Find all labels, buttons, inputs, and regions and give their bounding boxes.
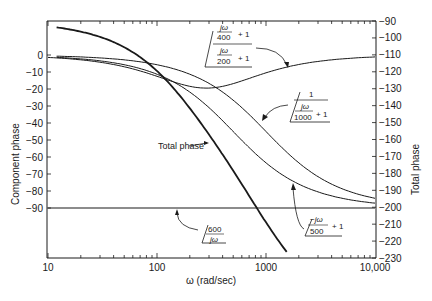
x-axis-label: ω (rad/sec) — [186, 275, 236, 286]
svg-text:−jω: −jω — [310, 215, 323, 224]
left-tick-label: −10 — [26, 67, 43, 78]
right-axis-label: Total phase — [410, 143, 421, 195]
right-tick-label: −190 — [379, 185, 402, 196]
left-tick-label: −40 — [26, 118, 43, 129]
right-tick-label: −170 — [379, 151, 402, 162]
svg-text:jω: jω — [300, 102, 309, 111]
right-tick-label: −200 — [379, 202, 402, 213]
svg-text:+ 1: + 1 — [332, 222, 344, 231]
x-tick-label: 10 — [42, 262, 54, 273]
left-tick-labels: 0−10−20−30−40−50−60−70−80−90 — [26, 50, 43, 214]
phase-curves — [48, 27, 375, 252]
x-tick-labels: 10100100010,000 — [42, 262, 390, 273]
svg-text:jω: jω — [219, 23, 228, 32]
total-phase-arrowhead — [204, 141, 209, 145]
leadlag-curve — [48, 57, 375, 88]
svg-text:+ 1: + 1 — [238, 30, 250, 39]
leadlag-annotation: jω 400 + 1 jω 200 + 1 — [205, 23, 289, 68]
right-tick-label: −130 — [379, 83, 402, 94]
svg-text:+ 1: + 1 — [238, 54, 250, 63]
x-tick-label: 10,000 — [360, 262, 391, 273]
x-tick-label: 1000 — [255, 262, 278, 273]
svg-text:jω: jω — [209, 235, 218, 244]
integrator-annotation: 600 jω — [175, 209, 226, 244]
right-tick-label: −220 — [379, 236, 402, 247]
svg-text:200: 200 — [217, 57, 231, 66]
left-axis-ticks — [47, 55, 51, 208]
left-tick-label: −30 — [26, 101, 43, 112]
right-tick-label: −160 — [379, 134, 402, 145]
right-tick-label: −110 — [379, 49, 401, 60]
pole-curve — [57, 56, 375, 198]
left-tick-label: −60 — [26, 152, 43, 163]
right-tick-label: −150 — [379, 117, 402, 128]
right-tick-label: −100 — [379, 32, 402, 43]
right-tick-label: −120 — [379, 66, 402, 77]
zero-annotation: −jω 500 + 1 — [291, 183, 344, 236]
left-tick-label: −20 — [26, 84, 43, 95]
x-tick-label: 100 — [149, 262, 166, 273]
svg-text:+ 1: + 1 — [316, 110, 328, 119]
right-tick-labels: −90−100−110−120−130−140−150−160−170−180−… — [379, 16, 402, 264]
total-phase-label: Total phase — [158, 141, 204, 151]
right-tick-label: −210 — [379, 219, 402, 230]
right-tick-label: −230 — [379, 253, 402, 264]
left-axis-label: Component phase — [10, 123, 21, 205]
left-tick-label: −90 — [26, 203, 43, 214]
phase-plot: 10100100010,000 0−10−20−30−40−50−60−70−8… — [0, 0, 432, 301]
right-tick-label: −140 — [379, 100, 402, 111]
rhp-zero-curve — [57, 57, 375, 203]
left-tick-label: −50 — [26, 135, 43, 146]
svg-text:400: 400 — [217, 33, 231, 42]
left-tick-label: 0 — [37, 50, 43, 61]
svg-text:1000: 1000 — [294, 113, 312, 122]
svg-text:jω: jω — [219, 46, 228, 55]
right-tick-label: −90 — [379, 16, 396, 27]
pole-annotation: 1 jω jω 1000 + 1 — [262, 90, 330, 122]
left-tick-label: −80 — [26, 186, 43, 197]
svg-text:600: 600 — [208, 225, 222, 234]
left-tick-label: −70 — [26, 169, 43, 180]
svg-text:500: 500 — [310, 227, 324, 236]
svg-text:1: 1 — [309, 90, 314, 99]
right-tick-label: −180 — [379, 168, 402, 179]
